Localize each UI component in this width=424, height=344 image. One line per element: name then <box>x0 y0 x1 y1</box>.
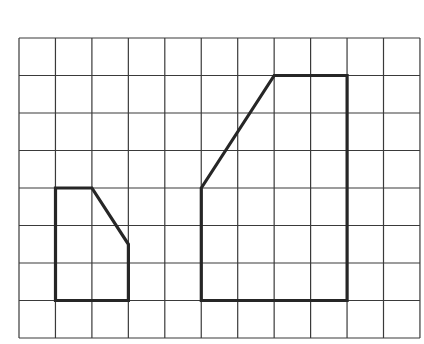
grid-diagram <box>0 0 424 344</box>
